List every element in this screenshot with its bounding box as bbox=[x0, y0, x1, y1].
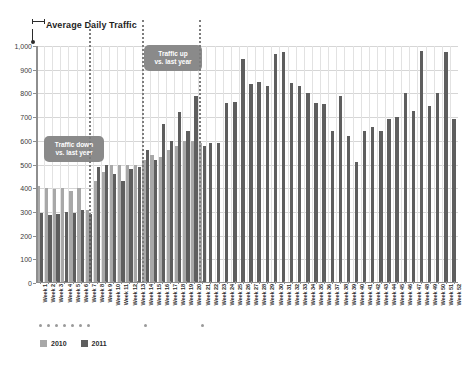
y-axis-tick-label: 800 bbox=[20, 90, 32, 97]
x-axis-tick bbox=[348, 281, 349, 284]
bar-2011 bbox=[129, 169, 132, 283]
x-axis-tick-label: Week 12 bbox=[132, 284, 138, 306]
y-axis-tick-label: 0 bbox=[28, 280, 32, 287]
x-axis-tick-label: Week 1 bbox=[42, 284, 48, 303]
x-axis-tick-label: Week 10 bbox=[115, 284, 121, 306]
bar-2011 bbox=[73, 213, 76, 283]
bar-2011 bbox=[363, 131, 366, 283]
axis-marker-dot bbox=[201, 324, 204, 327]
legend-swatch-icon bbox=[40, 340, 47, 347]
x-axis-tick bbox=[389, 281, 390, 284]
x-axis-tick bbox=[64, 281, 65, 284]
bar-2011 bbox=[138, 167, 141, 283]
x-axis-tick bbox=[365, 281, 366, 284]
x-axis-tick bbox=[129, 281, 130, 284]
x-axis-tick-label: Week 17 bbox=[172, 284, 178, 306]
x-axis-tick bbox=[227, 281, 228, 284]
x-axis-tick-label: Week 32 bbox=[294, 284, 300, 306]
x-axis-tick-label: Week 4 bbox=[67, 284, 73, 303]
y-axis-line bbox=[36, 46, 38, 283]
bar-2011 bbox=[186, 131, 189, 283]
x-axis-tick-label: Week 31 bbox=[286, 284, 292, 306]
x-axis-tick-label: Week 9 bbox=[107, 284, 113, 303]
x-axis-tick-label: Week 5 bbox=[75, 284, 81, 303]
x-axis-tick-label: Week 18 bbox=[180, 284, 186, 306]
bar-2011 bbox=[379, 131, 382, 283]
legend-swatch-icon bbox=[81, 340, 88, 347]
x-axis-tick-label: Week 36 bbox=[326, 284, 332, 306]
x-axis-tick-label: Week 14 bbox=[148, 284, 154, 306]
x-axis-tick bbox=[413, 281, 414, 284]
x-axis-tick-label: Week 23 bbox=[221, 284, 227, 306]
bar-2011 bbox=[209, 143, 212, 283]
bar-2011 bbox=[65, 212, 68, 283]
axis-marker-dot bbox=[71, 324, 74, 327]
x-axis-tick-label: Week 35 bbox=[318, 284, 324, 306]
x-axis-tick bbox=[275, 281, 276, 284]
x-axis-tick-label: Week 25 bbox=[237, 284, 243, 306]
bar-2011 bbox=[105, 165, 108, 284]
x-axis-tick bbox=[73, 281, 74, 284]
x-axis-tick bbox=[89, 281, 90, 284]
x-axis-tick bbox=[97, 281, 98, 284]
bar-2011 bbox=[113, 174, 116, 283]
bar-2011 bbox=[298, 86, 301, 283]
x-axis-tick bbox=[162, 281, 163, 284]
x-axis-tick-label: Week 34 bbox=[310, 284, 316, 306]
x-axis-tick bbox=[186, 281, 187, 284]
bar-2011 bbox=[371, 127, 374, 283]
x-axis-tick-label: Week 27 bbox=[253, 284, 259, 306]
legend-item-2011[interactable]: 2011 bbox=[81, 340, 107, 347]
bar-2011 bbox=[170, 141, 173, 283]
axis-marker-dot bbox=[39, 324, 42, 327]
x-axis-tick bbox=[243, 281, 244, 284]
bar-2011 bbox=[436, 93, 439, 283]
axis-marker-dot bbox=[47, 324, 50, 327]
x-axis-tick-label: Week 21 bbox=[205, 284, 211, 306]
x-axis-tick-label: Week 3 bbox=[58, 284, 64, 303]
bar-2011 bbox=[331, 131, 334, 283]
x-axis-tick-label: Week 43 bbox=[383, 284, 389, 306]
legend-label: 2011 bbox=[92, 340, 107, 347]
bar-2011 bbox=[154, 160, 157, 283]
x-axis-tick-label: Week 47 bbox=[416, 284, 422, 306]
x-axis-tick-label: Week 51 bbox=[448, 284, 454, 306]
chart-legend: 20102011 bbox=[40, 340, 107, 347]
x-axis-tick bbox=[170, 281, 171, 284]
axis-marker-dot bbox=[79, 324, 82, 327]
x-axis-tick bbox=[40, 281, 41, 284]
x-axis-tick bbox=[316, 281, 317, 284]
y-axis-tick-label: 700 bbox=[20, 114, 32, 121]
x-axis-tick-label: Week 52 bbox=[456, 284, 462, 306]
x-axis-tick-label: Week 38 bbox=[343, 284, 349, 306]
bar-2011 bbox=[452, 119, 455, 283]
y-axis-tick-label: 400 bbox=[20, 185, 32, 192]
x-axis-tick bbox=[300, 281, 301, 284]
x-axis-tick bbox=[446, 281, 447, 284]
bar-2011 bbox=[203, 146, 206, 283]
axis-marker-dot bbox=[144, 324, 147, 327]
x-axis-tick-label: Week 39 bbox=[351, 284, 357, 306]
x-axis-tick bbox=[113, 281, 114, 284]
bar-2011 bbox=[314, 103, 317, 283]
legend-item-2010[interactable]: 2010 bbox=[40, 340, 67, 347]
x-axis-tick-label: Week 42 bbox=[375, 284, 381, 306]
x-axis-tick-label: Week 11 bbox=[123, 284, 129, 305]
axis-marker-dot bbox=[63, 324, 66, 327]
period-divider bbox=[199, 20, 201, 283]
x-axis-tick bbox=[373, 281, 374, 284]
x-axis-tick bbox=[251, 281, 252, 284]
bar-2011 bbox=[282, 52, 285, 283]
x-axis-tick bbox=[178, 281, 179, 284]
x-axis-tick bbox=[235, 281, 236, 284]
x-axis-tick bbox=[357, 281, 358, 284]
bar-2011 bbox=[420, 51, 423, 283]
x-axis-tick bbox=[105, 281, 106, 284]
x-axis-tick-label: Week 50 bbox=[440, 284, 446, 306]
x-axis-tick-label: Week 6 bbox=[83, 284, 89, 303]
bar-2011 bbox=[56, 214, 59, 283]
bar-2011 bbox=[306, 93, 309, 283]
bar-2011 bbox=[48, 215, 51, 283]
x-axis-tick bbox=[324, 281, 325, 284]
average-daily-traffic-chart: Average Daily Traffic 010020030040050060… bbox=[0, 0, 470, 373]
